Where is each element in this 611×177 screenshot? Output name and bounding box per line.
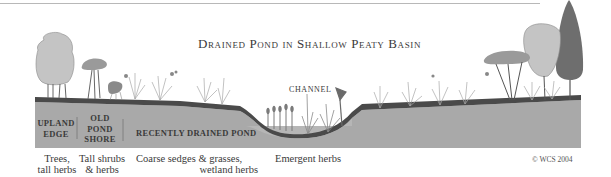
caption-shrubs: Tall shrubs & herbs (78, 153, 126, 175)
caption-line: Coarse sedges & grasses, (136, 153, 258, 164)
caption-sedges: Coarse sedges & grasses, wetland herbs (136, 153, 258, 175)
zone-label-line: EDGE (36, 129, 76, 140)
caption-line: wetland herbs (136, 164, 258, 175)
zone-label-line: OLD (79, 113, 121, 124)
caption-line: & herbs (78, 164, 126, 175)
caption-trees: Trees, tall herbs (32, 153, 82, 175)
caption-line: Trees, (32, 153, 82, 164)
caption-line: Emergent herbs (268, 153, 348, 164)
caption-line: Tall shrubs (78, 153, 126, 164)
channel-label: CHANNEL (289, 85, 331, 94)
zone-recently-drained-pond: RECENTLY DRAINED POND (136, 128, 266, 139)
right-flat-tree (484, 51, 530, 100)
upland-tree-trunks (48, 84, 66, 98)
zone-old-pond-shore: OLD POND SHORE (79, 113, 121, 145)
caption-emergent: Emergent herbs (268, 153, 348, 164)
caption-line: tall herbs (32, 164, 82, 175)
zone-upland-edge: UPLAND EDGE (36, 118, 76, 139)
zone-label-line: RECENTLY DRAINED POND (136, 128, 266, 139)
zone-label-line: POND (79, 124, 121, 135)
diagram-title: Drained Pond in Shallow Peaty Basin (0, 36, 611, 52)
zone-label-line: SHORE (79, 134, 121, 145)
shore-bush (108, 81, 122, 100)
shore-shrub (82, 59, 107, 99)
zone-label-line: UPLAND (36, 118, 76, 129)
flower-heads (124, 71, 489, 79)
copyright: © WCS 2004 (532, 155, 573, 164)
